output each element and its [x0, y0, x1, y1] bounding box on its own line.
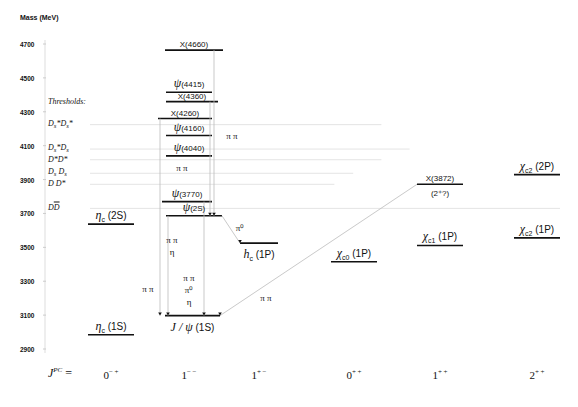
- transition-label: π π: [142, 283, 153, 295]
- level-label-hc-1p: hc (1P): [243, 247, 274, 262]
- level-label-chi-c2-2p: χc2 (2P): [520, 159, 554, 174]
- transition-label: π⁰: [236, 222, 245, 234]
- transition-label: π π η: [166, 234, 177, 258]
- level-label-chi-c0-1p: χc0 (1P): [337, 246, 371, 261]
- jpc-column-label: 0+ +: [346, 368, 361, 381]
- arrowhead-icon: [158, 313, 162, 316]
- level-label-eta-c-2s: ηc (2S): [95, 208, 126, 223]
- level-label-x-4660: X(4660): [180, 40, 208, 49]
- level-label-eta-c-1s: ηc (1S): [95, 319, 126, 334]
- transition-label: π π π⁰ η: [183, 272, 194, 308]
- jpc-column-label: 2+ +: [529, 368, 544, 381]
- transition-label: π π: [176, 162, 187, 174]
- charmonium-spectrum-diagram: Mass (MeV) 47004500430041003900370035003…: [0, 0, 578, 407]
- level-label-x-3872: X(3872): [426, 174, 454, 183]
- jpc-equals: =: [62, 366, 72, 380]
- level-label-chi-c1-1p: χc1 (1P): [423, 229, 457, 244]
- level-label-x-4260: X(4260): [171, 109, 199, 118]
- jpc-prefix-sup: PC: [53, 366, 62, 374]
- jpc-title: JPC =: [48, 366, 72, 381]
- level-label-psi-4415: ψ(4415): [174, 76, 205, 91]
- transition-label: π π: [226, 130, 237, 142]
- level-label-jpsi-1s: J / ψ (1S): [171, 320, 215, 335]
- level-label-psi-4160: ψ(4160): [174, 120, 205, 135]
- diagram-canvas: [0, 0, 578, 407]
- jpc-column-label: 1+ −: [251, 368, 266, 381]
- jpc-column-label: 1+ +: [432, 368, 447, 381]
- level-label-psi-3770: ψ(3770): [172, 186, 203, 201]
- level-label-psi-2s: ψ(2S): [183, 200, 206, 215]
- jpc-column-label: 1− −: [181, 368, 196, 381]
- level-label-psi-4040: ψ(4040): [174, 140, 205, 155]
- jpc-column-label: 0− +: [103, 368, 118, 381]
- level-label-x-4360: X(4360): [178, 92, 206, 101]
- transition-label: π π: [260, 292, 271, 304]
- level-note-x-3872: (2⁺?): [431, 189, 449, 198]
- level-label-chi-c2-1p: χc2 (1P): [520, 222, 554, 237]
